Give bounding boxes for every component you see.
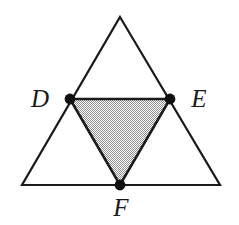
geometry-diagram: D E F bbox=[0, 0, 239, 225]
vertex-label-f: F bbox=[112, 194, 129, 221]
vertex-dot-e bbox=[165, 94, 176, 105]
vertex-label-e: E bbox=[190, 85, 206, 112]
vertex-label-d: D bbox=[30, 85, 49, 112]
vertex-dot-f bbox=[115, 180, 126, 191]
geometry-figure: D E F bbox=[0, 0, 239, 225]
vertex-dot-d bbox=[65, 94, 76, 105]
